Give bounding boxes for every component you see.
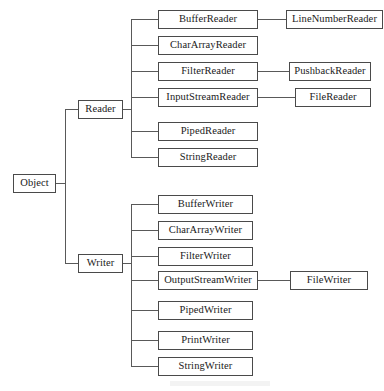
edge-writer-child-3: [131, 280, 158, 281]
node-writer[interactable]: Writer: [78, 254, 123, 273]
node-inputstreamreader[interactable]: InputStreamReader: [158, 88, 258, 107]
edge-reader-child-4: [131, 131, 158, 132]
node-reader[interactable]: Reader: [78, 100, 123, 119]
node-bufferwriter[interactable]: BufferWriter: [158, 195, 253, 214]
node-object[interactable]: Object: [13, 174, 56, 193]
node-bufferreader[interactable]: BufferReader: [158, 10, 258, 29]
node-filewriter[interactable]: FileWriter: [290, 271, 368, 290]
edge-object-spine: [65, 109, 66, 264]
edge-reader-spine: [131, 19, 132, 158]
node-stringwriter[interactable]: StringWriter: [158, 357, 253, 376]
edge-writer-child-4: [131, 310, 158, 311]
node-filereader[interactable]: FileReader: [295, 88, 371, 107]
edge-reader-child-5: [131, 157, 158, 158]
edge-object-to-writer: [65, 263, 78, 264]
edge-writer-child-0: [131, 204, 158, 205]
node-chararraywriter[interactable]: CharArrayWriter: [158, 221, 253, 240]
class-hierarchy-diagram: Object Reader Writer BufferReader CharAr…: [0, 0, 384, 391]
node-outputstreamwriter[interactable]: OutputStreamWriter: [158, 271, 258, 290]
node-pipedreader[interactable]: PipedReader: [158, 122, 258, 141]
edge-reader-child-3: [131, 97, 158, 98]
node-filterwriter[interactable]: FilterWriter: [158, 247, 253, 266]
edge-writer-child-2: [131, 256, 158, 257]
node-pushbackreader[interactable]: PushbackReader: [289, 62, 371, 81]
node-chararrayreader[interactable]: CharArrayReader: [158, 36, 258, 55]
edge-writer-child-1: [131, 230, 158, 231]
edge-writer-spine: [131, 204, 132, 366]
edge-reader-child-0: [131, 19, 158, 20]
node-stringreader[interactable]: StringReader: [158, 148, 258, 167]
edge-reader-child-1: [131, 45, 158, 46]
scan-artifact: [170, 381, 270, 386]
node-printwriter[interactable]: PrintWriter: [158, 331, 253, 350]
edge-reader-child-2: [131, 71, 158, 72]
edge-outputstreamwriter-to-filewriter: [258, 280, 290, 281]
edge-inputstreamreader-to-filereader: [258, 97, 295, 98]
edge-writer-child-6: [131, 366, 158, 367]
edge-object-to-reader: [65, 109, 78, 110]
node-filterreader[interactable]: FilterReader: [158, 62, 258, 81]
edge-filterreader-to-pushbackreader: [258, 71, 289, 72]
edge-bufferreader-to-linenumberreader: [258, 19, 286, 20]
node-pipedwriter[interactable]: PipedWriter: [158, 301, 253, 320]
node-linenumberreader[interactable]: LineNumberReader: [286, 10, 383, 29]
edge-writer-child-5: [131, 340, 158, 341]
